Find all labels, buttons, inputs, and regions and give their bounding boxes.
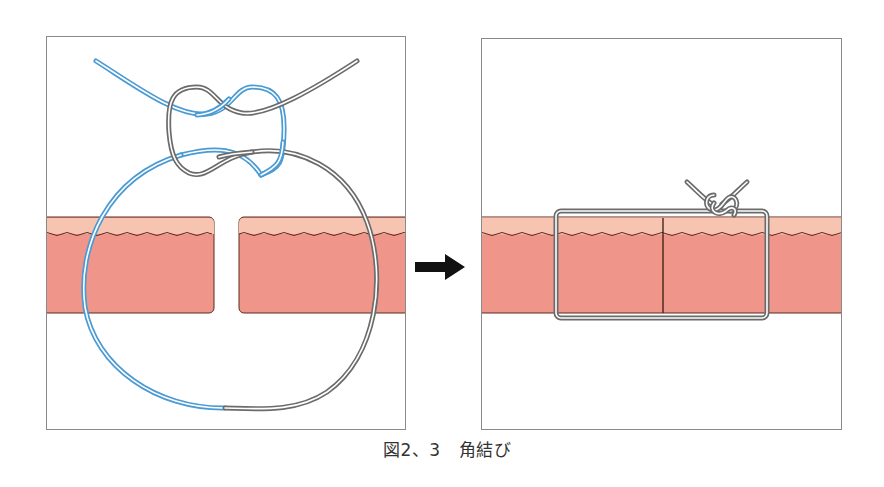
suture-before-illustration — [47, 37, 406, 430]
skin-left-piece — [47, 217, 214, 313]
figure-caption: 図2、3角結び — [0, 436, 884, 461]
caption-title: 角結び — [459, 436, 512, 461]
skin-right-piece — [239, 217, 406, 313]
skin-joined — [482, 217, 842, 313]
right-arrow-icon — [415, 252, 467, 282]
panel-after-knot — [481, 38, 842, 430]
panel-before-knot — [46, 36, 406, 430]
caption-label: 図2、3 — [383, 436, 441, 461]
suture-after-illustration — [482, 39, 842, 430]
